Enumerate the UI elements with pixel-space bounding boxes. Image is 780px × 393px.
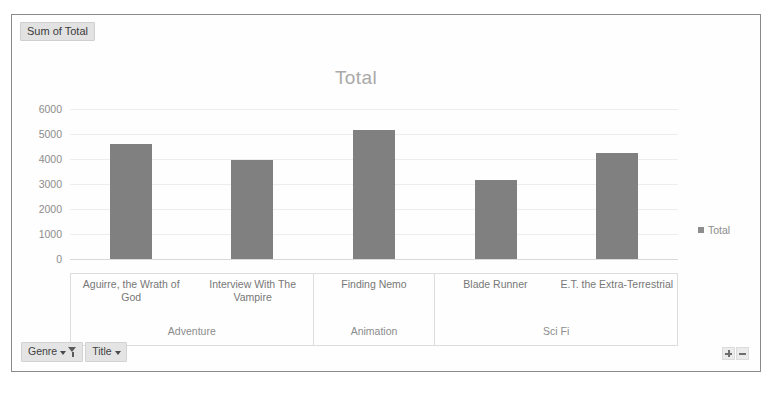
bar-4[interactable]	[475, 180, 517, 259]
expand-button[interactable]	[722, 347, 735, 360]
chart-title-text: Total	[335, 67, 377, 89]
chart-title[interactable]: Total	[12, 67, 760, 89]
legend-marker-icon	[698, 227, 704, 233]
chevron-down-icon[interactable]	[60, 351, 66, 355]
field-button-label: Genre	[28, 345, 57, 358]
field-button-genre[interactable]: Genre	[21, 342, 83, 362]
y-tick-label-5000: 5000	[39, 128, 62, 140]
y-tick-label-4000: 4000	[39, 153, 62, 165]
collapse-button[interactable]	[736, 347, 749, 360]
pivot-chart-frame[interactable]: Sum of Total Total 010002000300040005000…	[11, 14, 761, 372]
y-tick-label-3000: 3000	[39, 178, 62, 190]
bar-3[interactable]	[353, 130, 395, 259]
bar-2[interactable]	[231, 160, 273, 259]
legend-label-total: Total	[708, 224, 730, 236]
bar-5[interactable]	[596, 153, 638, 259]
value-field-button-sum-of-total[interactable]: Sum of Total	[20, 22, 95, 41]
category-axis-genres: AdventureAnimationSci Fi	[70, 316, 678, 346]
field-buttons-bar: GenreTitle	[21, 342, 127, 362]
category-label-4: Blade Runner	[435, 274, 556, 316]
chevron-down-icon[interactable]	[115, 351, 121, 355]
bar-series-container	[70, 109, 678, 259]
genre-group-sci-fi: Sci Fi	[435, 316, 677, 345]
plus-icon-v	[728, 350, 730, 357]
genre-group-adventure: Adventure	[71, 316, 314, 345]
category-label-1: Aguirre, the Wrath of God	[71, 274, 192, 316]
y-axis: 0100020003000400050006000	[20, 109, 66, 261]
category-label-2: Interview With The Vampire	[192, 274, 313, 316]
y-tick-label-1000: 1000	[39, 228, 62, 240]
category-label-3: Finding Nemo	[314, 274, 435, 316]
bar-1[interactable]	[110, 144, 152, 259]
legend[interactable]: Total	[698, 224, 730, 236]
y-tick-label-2000: 2000	[39, 203, 62, 215]
filter-funnel-icon[interactable]	[68, 347, 77, 357]
category-label-5: E.T. the Extra-Terrestrial	[557, 274, 677, 316]
category-axis-titles: Aguirre, the Wrath of GodInterview With …	[70, 273, 678, 316]
y-tick-label-6000: 6000	[39, 103, 62, 115]
y-tick-label-0: 0	[56, 253, 62, 265]
genre-group-animation: Animation	[314, 316, 436, 345]
minus-icon	[739, 353, 746, 355]
expand-collapse-buttons	[722, 347, 749, 360]
axis-line-zero	[70, 259, 678, 260]
field-button-title[interactable]: Title	[85, 342, 126, 362]
field-button-label: Title	[92, 345, 111, 358]
